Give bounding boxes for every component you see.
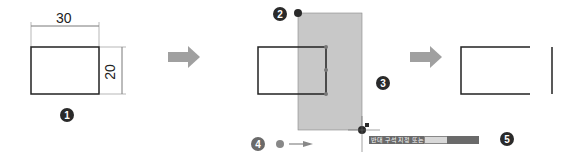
corner-point-1: [294, 9, 302, 17]
click-dot: [276, 140, 284, 148]
width-dimension: 30: [56, 10, 72, 26]
step5-result: 5: [461, 47, 552, 146]
svg-text:2: 2: [277, 9, 283, 20]
step-crossing-window: 2 3 4: [251, 7, 390, 152]
selection-window: [298, 13, 362, 130]
arrow-icon: [410, 46, 442, 68]
dynamic-input-prompt: 반대 구석 지정 또는: [369, 136, 425, 144]
height-dimension: 20: [102, 64, 118, 80]
svg-text:1: 1: [64, 110, 70, 121]
rectangle-original: [31, 47, 99, 94]
dynamic-input-field-2[interactable]: [447, 136, 479, 144]
svg-text:3: 3: [380, 78, 386, 89]
svg-text:5: 5: [504, 134, 510, 145]
diagram-canvas: 1 2 3 4 5: [0, 0, 575, 159]
arrow-icon: [168, 46, 200, 68]
svg-text:4: 4: [255, 139, 261, 150]
